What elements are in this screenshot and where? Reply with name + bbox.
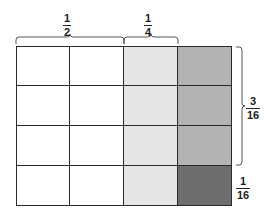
label-one-half: 1 2 [63, 13, 71, 38]
fraction-grid [16, 46, 232, 206]
grid-cell [123, 46, 178, 86]
grid-cell [69, 85, 124, 126]
grid-cell [123, 85, 178, 126]
label-one-quarter: 1 4 [144, 13, 152, 38]
numerator: 1 [63, 13, 71, 24]
grid-cell [16, 85, 70, 126]
numerator: 1 [239, 176, 247, 187]
denominator: 2 [63, 27, 71, 38]
grid-cell [123, 125, 178, 166]
grid-cell [69, 165, 124, 206]
denominator: 16 [246, 110, 260, 121]
denominator: 4 [144, 27, 152, 38]
grid-cell [69, 125, 124, 166]
grid-cell [177, 165, 232, 206]
grid-cell [16, 165, 70, 206]
label-one-sixteenth: 1 16 [236, 176, 250, 201]
denominator: 16 [236, 190, 250, 201]
grid-cell [16, 46, 70, 86]
numerator: 1 [144, 13, 152, 24]
grid-cell [177, 46, 232, 86]
grid-cell [177, 85, 232, 126]
label-three-sixteenths: 3 16 [246, 96, 260, 121]
grid-cell [69, 46, 124, 86]
grid-cell [177, 125, 232, 166]
three-sixteenths-brace [236, 47, 245, 165]
numerator: 3 [249, 96, 257, 107]
grid-cell [123, 165, 178, 206]
grid-cell [16, 125, 70, 166]
